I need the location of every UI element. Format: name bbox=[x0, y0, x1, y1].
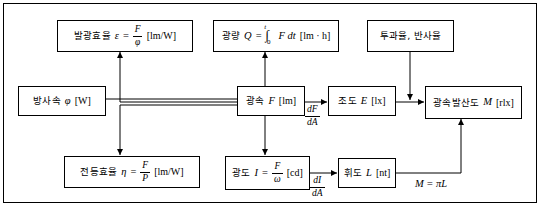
illuminance-label: 조도 bbox=[338, 96, 356, 106]
integral-icon: ∫t0 bbox=[266, 28, 275, 45]
edge-label-flux-to-illuminance-denominator: dA bbox=[305, 116, 320, 128]
quantity-of-light-integrand: F dt bbox=[279, 31, 296, 42]
node-luminous-intensity[interactable]: 광도 I = F ω [cd] bbox=[225, 156, 310, 190]
integral-upper-limit: t bbox=[264, 23, 266, 31]
edge-label-luminance-to-emittance: M = πL bbox=[415, 178, 447, 189]
luminous-intensity-denominator: ω bbox=[272, 173, 283, 185]
luminous-emittance-unit: [rlx] bbox=[496, 98, 514, 108]
edge-luminance-to-emittance bbox=[396, 119, 461, 173]
node-illuminance[interactable]: 조도 E [lx] bbox=[328, 86, 396, 116]
node-luminance[interactable]: 휘도 L [nt] bbox=[338, 158, 396, 188]
luminous-intensity-fraction: F ω bbox=[272, 162, 283, 184]
luminous-emittance-label: 광속발산도 bbox=[433, 98, 479, 108]
luminous-intensity-equals: = bbox=[262, 168, 268, 179]
quantity-of-light-equals: = bbox=[256, 31, 262, 42]
luminous-flux-symbol: F bbox=[268, 96, 274, 107]
luminous-intensity-symbol: I bbox=[255, 168, 259, 179]
edge-label-intensity-to-luminance-denominator: dA bbox=[310, 187, 325, 199]
luminous-intensity-label: 광도 bbox=[232, 168, 250, 178]
illuminance-symbol: E bbox=[361, 96, 367, 107]
edge-label-intensity-to-luminance: dI dA bbox=[310, 176, 325, 198]
quantity-of-light-unit: [lm · h] bbox=[300, 31, 331, 41]
luminance-unit: [nt] bbox=[376, 168, 390, 178]
node-quantity-of-light[interactable]: 광량 Q = ∫t0 F dt [lm · h] bbox=[213, 20, 339, 52]
node-radiant-flux[interactable]: 방사속 φ [W] bbox=[18, 86, 106, 116]
luminous-emittance-symbol: M bbox=[483, 97, 492, 108]
luminous-efficacy-numerator: F bbox=[133, 25, 143, 35]
diagram-canvas: 발광효율 ε = F φ [lm/W] 광량 Q = ∫t0 F dt [lm … bbox=[0, 0, 541, 207]
radiant-flux-unit: [W] bbox=[75, 96, 91, 106]
luminous-intensity-unit: [cd] bbox=[287, 168, 303, 178]
luminous-efficacy-label: 발광효율 bbox=[74, 31, 111, 41]
edge-label-intensity-to-luminance-numerator: dI bbox=[311, 176, 323, 186]
luminance-symbol: L bbox=[366, 168, 372, 179]
lamp-efficiency-symbol: η bbox=[121, 167, 126, 178]
luminous-efficacy-unit: [lm/W] bbox=[147, 31, 176, 41]
illuminance-unit: [lx] bbox=[371, 96, 385, 106]
luminous-efficacy-fraction: F φ bbox=[133, 25, 143, 47]
node-luminous-efficacy[interactable]: 발광효율 ε = F φ [lm/W] bbox=[57, 20, 193, 52]
luminous-efficacy-equals: = bbox=[123, 31, 129, 42]
lamp-efficiency-numerator: F bbox=[140, 161, 150, 171]
lamp-efficiency-label: 전등효율 bbox=[80, 167, 117, 177]
lamp-efficiency-equals: = bbox=[130, 167, 136, 178]
node-luminous-flux[interactable]: 광속 F [lm] bbox=[237, 86, 305, 116]
radiant-flux-symbol: φ bbox=[65, 96, 71, 107]
quantity-of-light-label: 광량 bbox=[222, 31, 240, 41]
quantity-of-light-symbol: Q bbox=[244, 31, 252, 42]
edge-label-flux-to-illuminance: dF dA bbox=[305, 105, 320, 127]
node-transmittance-reflectance[interactable]: 투과율, 반사율 bbox=[367, 20, 454, 52]
lamp-efficiency-unit: [lm/W] bbox=[154, 167, 183, 177]
luminous-flux-label: 광속 bbox=[246, 96, 264, 106]
lamp-efficiency-denominator: P bbox=[140, 172, 150, 184]
node-lamp-efficiency[interactable]: 전등효율 η = F P [lm/W] bbox=[64, 156, 200, 188]
luminous-efficacy-denominator: φ bbox=[133, 36, 142, 48]
luminance-label: 휘도 bbox=[344, 168, 362, 178]
edge-label-flux-to-illuminance-numerator: dF bbox=[305, 105, 320, 115]
transmittance-reflectance-label: 투과율, 반사율 bbox=[380, 31, 442, 41]
integral-lower-limit: 0 bbox=[267, 38, 271, 46]
luminous-intensity-numerator: F bbox=[272, 162, 282, 172]
lamp-efficiency-fraction: F P bbox=[140, 161, 150, 183]
luminous-flux-unit: [lm] bbox=[279, 96, 296, 106]
radiant-flux-label: 방사속 bbox=[33, 96, 61, 106]
luminous-efficacy-symbol: ε bbox=[115, 31, 119, 42]
node-luminous-emittance[interactable]: 광속발산도 M [rlx] bbox=[425, 86, 522, 119]
